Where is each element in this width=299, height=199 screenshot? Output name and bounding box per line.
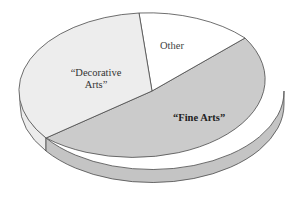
label-decorative-arts-line1: “Decorative (58, 67, 134, 79)
label-fine-arts: “Fine Arts” (173, 112, 225, 124)
pie-chart (0, 0, 299, 199)
label-decorative-arts-line2: Arts” (58, 79, 134, 91)
label-decorative-arts: “Decorative Arts” (58, 67, 134, 91)
pie-top (19, 13, 265, 158)
label-other: Other (160, 40, 184, 52)
